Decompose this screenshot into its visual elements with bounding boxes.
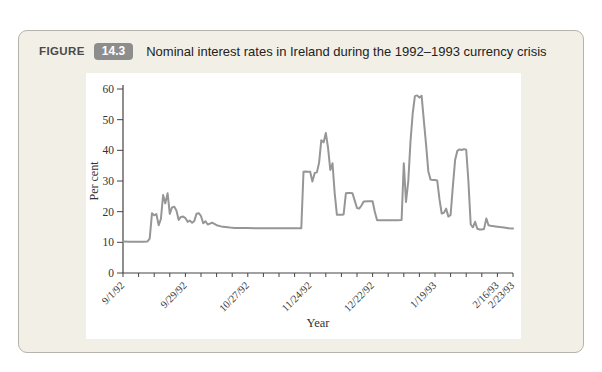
series-line (123, 95, 513, 241)
figure-title: Nominal interest rates in Ireland during… (142, 44, 546, 59)
interest-rate-chart: 01020304050609/1/929/29/9210/27/9211/24/… (86, 73, 521, 339)
x-tick-label: 9/1/92 (100, 280, 127, 307)
y-axis-title: Per cent (87, 161, 101, 201)
y-tick-label: 20 (103, 206, 115, 218)
chart-box: 01020304050609/1/929/29/9210/27/9211/24/… (86, 73, 521, 339)
y-tick-label: 10 (103, 236, 115, 248)
x-tick-label: 12/22/92 (342, 280, 376, 314)
page: { "figure": { "label": "FIGURE", "number… (0, 0, 602, 372)
x-tick-label: 9/29/92 (158, 280, 188, 310)
x-tick-label: 11/24/92 (280, 280, 314, 314)
y-tick-label: 30 (103, 175, 115, 187)
y-tick-label: 50 (103, 114, 115, 126)
figure-number-badge: 14.3 (94, 43, 133, 60)
axes (123, 85, 513, 273)
x-tick-label: 1/19/93 (408, 280, 438, 310)
x-tick-label: 10/27/92 (217, 280, 251, 314)
figure-panel: FIGURE 14.3 Nominal interest rates in Ir… (18, 30, 584, 353)
figure-label: FIGURE (39, 45, 85, 57)
y-tick-label: 0 (108, 267, 114, 279)
y-tick-label: 40 (103, 144, 115, 156)
figure-header: FIGURE 14.3 Nominal interest rates in Ir… (39, 41, 547, 61)
x-axis-title: Year (306, 316, 330, 330)
y-tick-label: 60 (103, 83, 115, 95)
